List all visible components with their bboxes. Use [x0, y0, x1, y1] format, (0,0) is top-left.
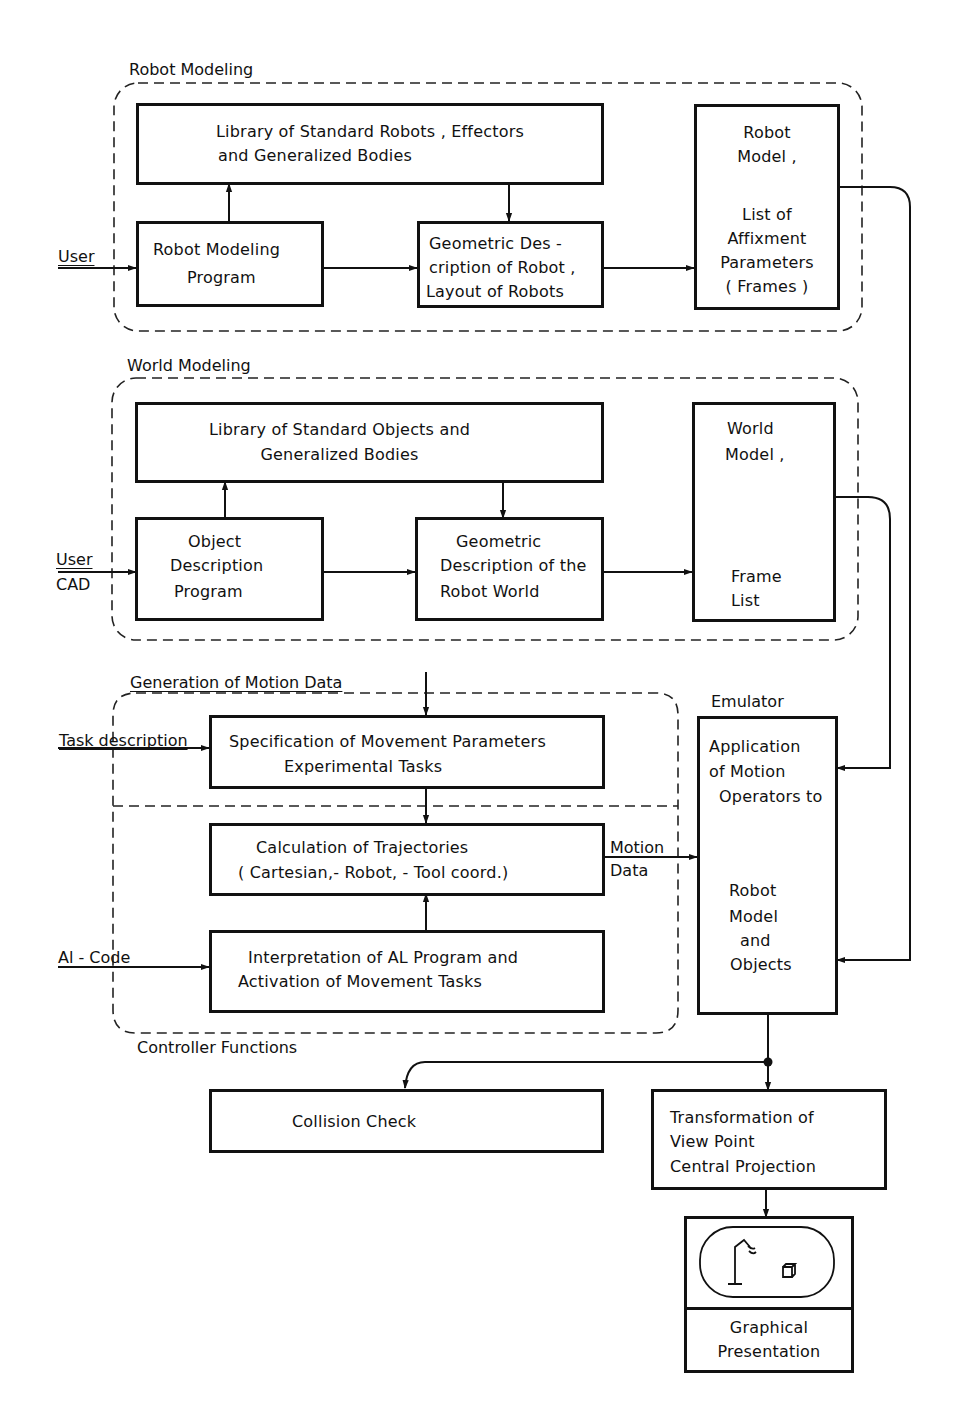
movement-specification-box: Specification of Movement Parameters Exp…: [209, 715, 605, 789]
robot-library-box: Library of Standard Robots , Effectors a…: [136, 103, 604, 185]
object-description-program-box: Object Description Program: [135, 517, 324, 621]
user-input-label: User: [58, 247, 94, 267]
al-interpretation-box: Interpretation of AL Program and Activat…: [209, 930, 605, 1013]
trajectory-calculation-box: Calculation of Trajectories ( Cartesian,…: [209, 823, 605, 896]
robot-modeling-program-box: Robot Modeling Program: [136, 221, 324, 307]
cad-input-label: CAD: [56, 575, 90, 595]
junction-dot: [764, 1058, 773, 1067]
robot-modeling-title: Robot Modeling: [129, 60, 253, 80]
motion-data-label-1: Motion: [610, 838, 664, 858]
task-description-label: Task description: [59, 731, 188, 751]
world-model-box: World Model , Frame List: [692, 402, 836, 622]
world-geometric-description-box: Geometric Description of the Robot World: [415, 517, 604, 621]
world-library-box: Library of Standard Objects and Generali…: [135, 402, 604, 483]
motion-data-label-2: Data: [610, 861, 648, 881]
graphical-presentation-box: Graphical Presentation: [684, 1307, 854, 1373]
emulator-box: Application of Motion Operators to Robot…: [697, 716, 838, 1015]
emulator-title: Emulator: [711, 692, 784, 712]
graphical-screen-box: [684, 1216, 854, 1310]
transformation-box: Transformation of View Point Central Pro…: [651, 1089, 887, 1190]
world-modeling-title: World Modeling: [127, 356, 251, 376]
robot-model-box: Robot Model , List of Affixment Paramete…: [694, 104, 840, 310]
system-architecture-diagram: Robot Modeling World Modeling Generation…: [0, 0, 953, 1417]
user-input-label-world: User: [56, 550, 92, 570]
al-code-label: Al - Code: [58, 948, 130, 968]
controller-functions-title: Controller Functions: [137, 1038, 297, 1058]
motion-generation-title: Generation of Motion Data: [130, 673, 342, 693]
collision-check-box: Collision Check: [209, 1089, 604, 1153]
robot-geometric-description-box: Geometric Des - cription of Robot , Layo…: [417, 221, 604, 308]
